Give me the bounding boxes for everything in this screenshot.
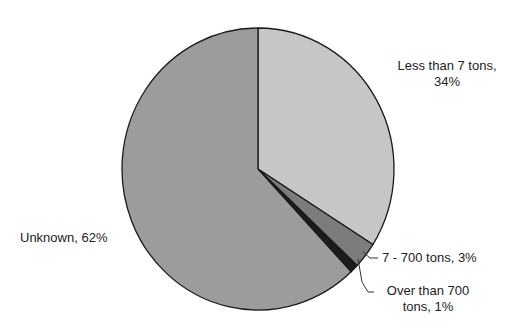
pie-chart [0,0,529,331]
label-over-700-tons: Over than 700 tons, 1% [374,283,482,315]
label-over-700-line1: Over than 700 [374,283,482,299]
label-less-than-7-line2: 34% [382,74,512,90]
label-over-700-line2: tons, 1% [374,299,482,315]
label-7-700-tons: 7 - 700 tons, 3% [382,250,477,266]
label-less-than-7-line1: Less than 7 tons, [382,58,512,74]
label-less-than-7-tons: Less than 7 tons, 34% [382,58,512,90]
pie-slices [122,28,394,310]
leader-line-over-700 [358,259,374,292]
label-unknown: Unknown, 62% [20,230,107,246]
